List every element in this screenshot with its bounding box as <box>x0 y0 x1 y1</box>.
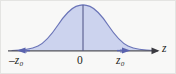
label-axis-z: z <box>162 43 166 55</box>
distribution-chart-svg <box>0 0 176 74</box>
normal-distribution-figure: –z0 0 z0 z <box>0 0 176 74</box>
label-positive-z0: z0 <box>116 55 124 67</box>
label-zero: 0 <box>77 55 83 67</box>
label-negative-z0-subscript: 0 <box>19 60 23 68</box>
label-negative-z0: –z0 <box>9 55 23 67</box>
z-axis-arrowhead-icon <box>152 47 160 54</box>
label-positive-z0-subscript: 0 <box>121 60 125 68</box>
